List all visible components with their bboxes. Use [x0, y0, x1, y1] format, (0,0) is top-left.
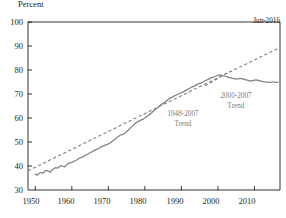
data-series-line [35, 75, 278, 175]
y-axis-tick-marks [28, 22, 32, 166]
long-trend-line [28, 48, 278, 170]
x-axis-tick-marks [35, 186, 254, 190]
chart-container: Percent 100 90 80 70 60 50 40 30 1950 19… [0, 0, 286, 218]
chart-plot-area [0, 0, 286, 218]
